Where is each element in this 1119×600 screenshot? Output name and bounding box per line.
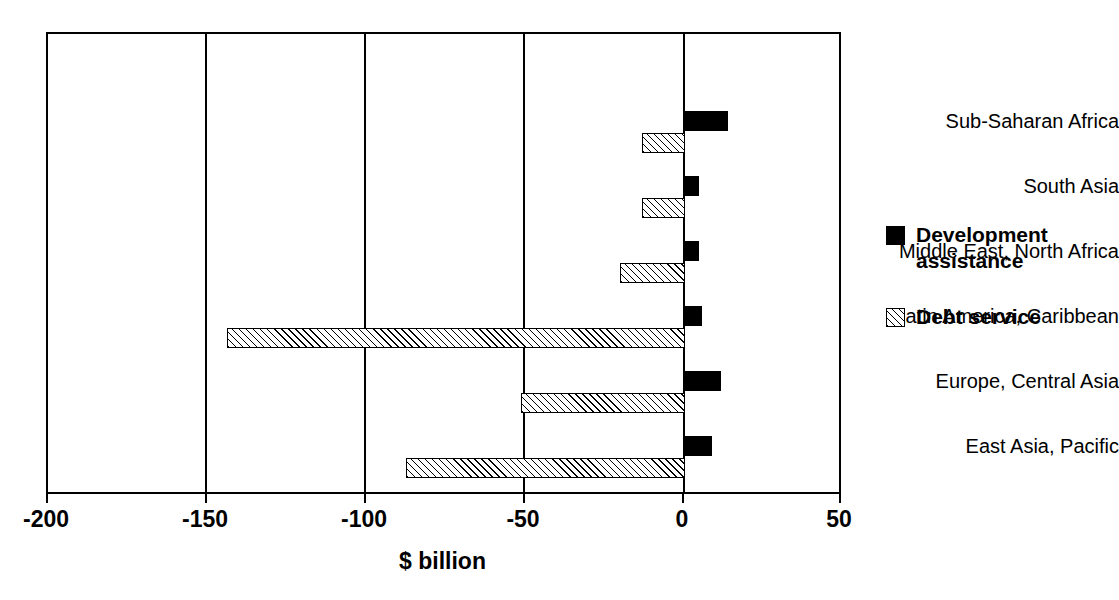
x-tick-label--100: -100: [314, 505, 414, 533]
legend-item-debt-service[interactable]: Debt service: [886, 304, 1116, 330]
legend-label-line1: Development: [916, 223, 1048, 246]
x-tick-label-0: 0: [632, 505, 732, 533]
category-label-east-asia-pacific: East Asia, Pacific: [503, 434, 1119, 458]
bar-debt-service[interactable]: [406, 458, 685, 478]
bar-debt-service[interactable]: [227, 328, 685, 348]
hatched-square-icon: [886, 308, 905, 327]
x-tick--100: [364, 494, 366, 503]
x-tick-label--200: -200: [0, 505, 96, 533]
legend-label-line2: assistance: [916, 249, 1023, 272]
x-tick-label-50: 50: [789, 505, 889, 533]
x-tick-0: [682, 494, 684, 503]
x-axis-title: $ billion: [0, 548, 885, 575]
bar-debt-service[interactable]: [642, 198, 685, 218]
x-tick--150: [205, 494, 207, 503]
solid-black-square-icon: [886, 226, 905, 245]
x-tick-50: [839, 494, 841, 503]
bar-debt-service[interactable]: [620, 263, 685, 283]
plot-area: [46, 32, 841, 494]
category-label-south-asia: South Asia: [503, 174, 1119, 198]
category-label-sub-saharan-africa: Sub-Saharan Africa: [503, 109, 1119, 133]
legend-label-debt-service: Debt service: [916, 304, 1041, 330]
category-label-europe-central-asia: Europe, Central Asia: [503, 369, 1119, 393]
legend-label-development-assistance: Development assistance: [916, 222, 1048, 274]
x-tick-label--50: -50: [473, 505, 573, 533]
x-tick--200: [46, 494, 48, 503]
legend-label-line1: Debt service: [916, 305, 1041, 328]
legend-item-development-assistance[interactable]: Development assistance: [886, 222, 1116, 274]
bar-debt-service[interactable]: [642, 133, 685, 153]
x-tick-label--150: -150: [155, 505, 255, 533]
bar-chart: Sub-Saharan Africa South Asia Middle Eas…: [0, 0, 1119, 600]
bar-debt-service[interactable]: [521, 393, 685, 413]
x-tick--50: [523, 494, 525, 503]
legend: Development assistance Debt service: [886, 222, 1116, 360]
